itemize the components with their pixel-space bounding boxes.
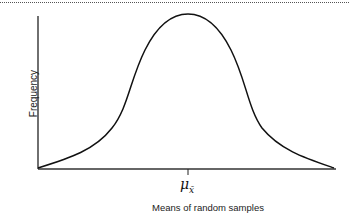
mu-symbol: μ — [180, 176, 189, 192]
normal-curve — [38, 14, 334, 168]
mean-tick-label: μx̄ — [180, 176, 194, 195]
y-axis-label: Frequency — [28, 59, 39, 129]
x-axis-label: Means of random samples — [138, 202, 278, 213]
mu-subscript: x̄ — [189, 185, 194, 195]
chart-plot-area — [0, 0, 349, 221]
